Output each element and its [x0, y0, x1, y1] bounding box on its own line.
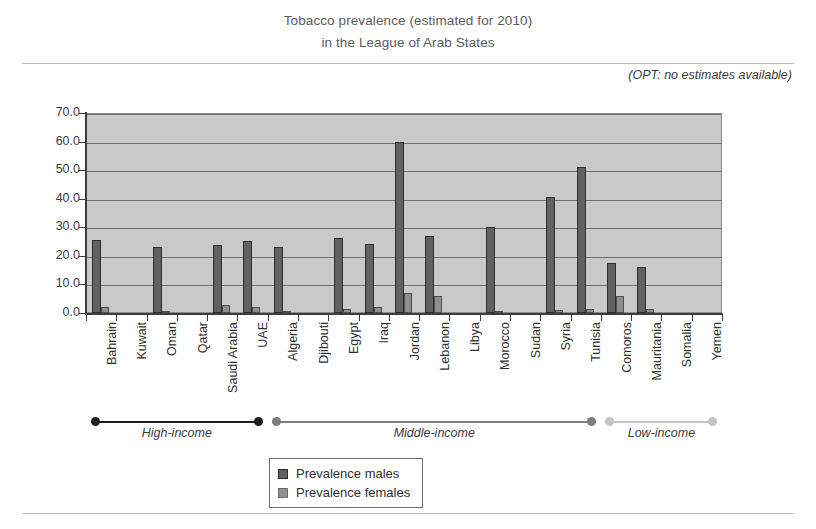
x-axis-tick-mark: [147, 314, 148, 321]
y-axis-tick-mark: [79, 227, 86, 228]
chart-legend: Prevalence males Prevalence females: [269, 458, 423, 508]
y-axis-tick-label: 50.0: [28, 162, 80, 176]
x-axis-category-label: Tunisia: [589, 322, 603, 362]
bar-female: [162, 311, 170, 313]
x-axis-category-label: Lebanon: [438, 322, 452, 371]
income-band-end-dot-icon: [587, 417, 596, 426]
y-axis-tick-label: 30.0: [28, 219, 80, 233]
income-band-group: High-incomeMiddle-incomeLow-income: [0, 412, 816, 452]
bar-male: [395, 142, 404, 313]
x-axis-category-label: Yemen: [710, 322, 724, 360]
x-axis-category-label: Oman: [165, 322, 179, 356]
x-axis-category-label: Saudi Arabia: [226, 322, 240, 393]
bar-male: [153, 247, 162, 313]
bar-male: [637, 267, 646, 313]
x-axis-tick-mark: [328, 314, 329, 321]
y-axis-tick-mark: [79, 113, 86, 114]
y-axis-tick-label: 60.0: [28, 134, 80, 148]
x-axis-category-label: Iraq: [377, 322, 391, 344]
y-axis-tick-label: 0.0: [28, 305, 80, 319]
y-axis-tick-mark: [79, 199, 86, 200]
x-axis-tick-mark: [359, 314, 360, 321]
x-axis-tick-mark: [86, 314, 87, 321]
income-band: Low-income: [605, 412, 717, 446]
bar-female: [646, 309, 654, 313]
x-axis-category-label: Somalia: [680, 322, 694, 367]
x-axis-category-label: Mauritania: [650, 322, 664, 380]
x-axis-category-label: Kuwait: [135, 322, 149, 360]
x-axis-category-label: Egypt: [347, 322, 361, 354]
bar-female: [343, 309, 351, 313]
y-axis-tick-mark: [79, 313, 86, 314]
bar-series-group: [86, 113, 722, 313]
chart-page: Tobacco prevalence (estimated for 2010) …: [0, 0, 816, 529]
legend-swatch-males-icon: [278, 469, 288, 479]
x-axis-tick-mark: [389, 314, 390, 321]
x-axis: [85, 313, 723, 315]
y-axis-tick-mark: [79, 256, 86, 257]
x-axis-tick-mark: [419, 314, 420, 321]
income-band-start-dot-icon: [91, 417, 100, 426]
bar-male: [213, 245, 222, 313]
y-axis-tick-label: 10.0: [28, 276, 80, 290]
x-axis-tick-mark: [692, 314, 693, 321]
income-band-label: High-income: [91, 426, 264, 440]
x-axis-tick-mark: [116, 314, 117, 321]
legend-item-males: Prevalence males: [278, 464, 410, 483]
bar-male: [274, 247, 283, 313]
x-axis-tick-mark: [631, 314, 632, 321]
x-axis-tick-mark: [268, 314, 269, 321]
x-axis-tick-mark: [661, 314, 662, 321]
x-axis-category-label: Qatar: [196, 322, 210, 353]
y-axis-tick-mark: [79, 170, 86, 171]
bar-female: [374, 307, 382, 313]
x-axis-tick-mark: [722, 314, 723, 321]
x-axis-category-label: Algeria: [286, 322, 300, 361]
x-axis-tick-mark: [449, 314, 450, 321]
bar-male: [425, 236, 434, 313]
income-band-label: Low-income: [605, 426, 717, 440]
y-axis-tick-mark: [79, 142, 86, 143]
bar-female: [616, 296, 624, 313]
bar-male: [92, 240, 101, 313]
x-axis-category-label: Libya: [468, 322, 482, 352]
x-axis-tick-mark: [510, 314, 511, 321]
x-axis-tick-mark: [601, 314, 602, 321]
bar-male: [486, 227, 495, 313]
legend-label-females: Prevalence females: [296, 485, 410, 500]
x-axis-category-label: UAE: [256, 322, 270, 348]
x-axis-category-label: Bahrain: [105, 322, 119, 365]
x-axis-tick-mark: [177, 314, 178, 321]
income-band-start-dot-icon: [272, 417, 281, 426]
income-band-end-dot-icon: [708, 417, 717, 426]
income-band-end-dot-icon: [254, 417, 263, 426]
income-band-line: [272, 421, 596, 423]
bar-female: [101, 307, 109, 313]
footer-divider: [22, 513, 794, 514]
bar-female: [434, 296, 442, 313]
x-axis-tick-mark: [480, 314, 481, 321]
bar-female: [404, 293, 412, 313]
bar-female: [222, 305, 230, 313]
x-axis-tick-mark: [571, 314, 572, 321]
bar-female: [586, 309, 594, 313]
bar-female: [555, 310, 563, 313]
bar-female: [283, 311, 291, 313]
x-axis-category-label: Syria: [559, 322, 573, 350]
bar-male: [577, 167, 586, 313]
legend-label-males: Prevalence males: [296, 466, 399, 481]
x-axis-tick-mark: [298, 314, 299, 321]
bar-male: [607, 263, 616, 313]
x-axis-category-label: Jordan: [408, 322, 422, 360]
y-axis-tick-label: 20.0: [28, 248, 80, 262]
x-axis-category-label: Comoros: [620, 322, 634, 373]
x-axis-tick-mark: [207, 314, 208, 321]
x-axis-tick-mark: [237, 314, 238, 321]
legend-item-females: Prevalence females: [278, 483, 410, 502]
income-band: High-income: [91, 412, 264, 446]
y-axis-tick-label: 40.0: [28, 191, 80, 205]
x-axis-category-label: Morocco: [498, 322, 512, 370]
bar-male: [243, 241, 252, 313]
income-band-label: Middle-income: [272, 426, 596, 440]
legend-swatch-females-icon: [278, 488, 288, 498]
